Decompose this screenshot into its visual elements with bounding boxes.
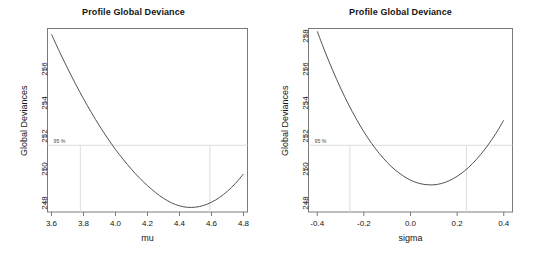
x-tick-label: 4.2 [142, 219, 153, 228]
y-tick-label: 250 [40, 163, 49, 176]
y-tick-label: 252 [301, 129, 310, 142]
x-tick-label: 4.4 [174, 219, 185, 228]
x-tick-label: 4.0 [110, 219, 121, 228]
x-tick-label: 0.0 [405, 219, 416, 228]
y-tick-label: 256 [40, 63, 49, 76]
y-tick-label: 254 [301, 96, 310, 109]
x-tick-label: -0.4 [310, 219, 324, 228]
ci-label-left: 95 % [54, 138, 66, 144]
y-tick-label: 248 [40, 196, 49, 209]
x-tick-label: 0.2 [452, 219, 463, 228]
y-axis-title-left: Global Deviances [19, 86, 29, 157]
plot-box-right [309, 29, 513, 213]
profile-deviance-figure: Profile Global Deviance 95 % mu Global D… [0, 0, 534, 256]
panel-sigma: Profile Global Deviance 95 % sigma Globa… [267, 0, 534, 256]
y-axis-ticks-right [305, 36, 309, 203]
x-tick-label: -0.2 [357, 219, 371, 228]
profile-deviance-curve-right [317, 31, 504, 185]
y-tick-label: 248 [301, 196, 310, 209]
x-tick-label: 4.8 [238, 219, 249, 228]
y-tick-label: 252 [40, 129, 49, 142]
plot-canvas-left [0, 0, 267, 256]
y-tick-label: 258 [301, 29, 310, 42]
plot-box-left [48, 29, 248, 213]
x-tick-label: 0.4 [498, 219, 509, 228]
x-axis-ticks-left [52, 212, 244, 216]
confidence-lines-right [309, 145, 513, 212]
x-axis-title-right: sigma [309, 233, 513, 243]
y-axis-title-right: Global Deviances [280, 86, 290, 157]
x-tick-label: 3.6 [46, 219, 57, 228]
ci-label-right: 95 % [315, 138, 327, 144]
x-tick-label: 4.6 [206, 219, 217, 228]
x-tick-label: 3.8 [78, 219, 89, 228]
x-axis-ticks-right [317, 212, 504, 216]
y-tick-label: 254 [40, 96, 49, 109]
confidence-lines-left [48, 145, 248, 212]
y-tick-label: 256 [301, 63, 310, 76]
panel-mu: Profile Global Deviance 95 % mu Global D… [0, 0, 267, 256]
y-tick-label: 250 [301, 163, 310, 176]
x-axis-title-left: mu [48, 233, 248, 243]
